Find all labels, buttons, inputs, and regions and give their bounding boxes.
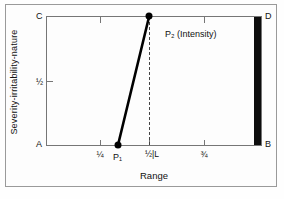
corner-label-a: A (36, 140, 42, 149)
x-tick-mark-top-quarter (100, 17, 101, 23)
x-axis-label: Range (46, 170, 262, 181)
datapoint-p2[interactable] (146, 13, 153, 20)
figure-canvas: Severity-irritability-nature C D A B ½ ¼… (0, 0, 284, 199)
datapoint-p1[interactable] (115, 142, 122, 149)
corner-label-c: C (36, 12, 43, 21)
dashed-reference-line-l (149, 17, 150, 145)
x-tick-label-half-l: ½|L (145, 149, 159, 159)
corner-label-b: B (265, 140, 271, 149)
x-tick-label-quarter: ¼ (96, 149, 103, 159)
x-tick-mark-threequarter (204, 140, 205, 146)
x-tick-mark-quarter (100, 140, 101, 146)
x-tick-label-threequarter: ¾ (200, 149, 207, 159)
intensity-bar-db (254, 17, 261, 145)
annotation-p2-intensity: P₂ (Intensity) (165, 29, 217, 39)
plot-area (46, 16, 262, 146)
x-tick-mark-top-threequarter (204, 17, 205, 23)
annotation-p1: P₁ (113, 152, 122, 162)
corner-label-d: D (265, 12, 272, 21)
y-tick-label-half: ½ (29, 77, 43, 87)
y-tick-mark-half (46, 81, 53, 82)
y-axis-label: Severity-irritability-nature (9, 0, 19, 177)
